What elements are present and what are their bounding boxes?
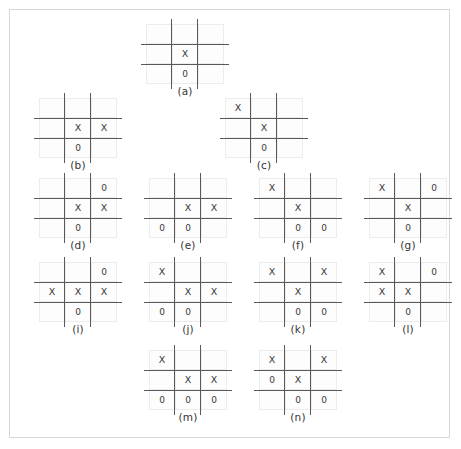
board-cell-r3c3[interactable]: 0 xyxy=(311,390,337,410)
board-cell-r2c2[interactable]: X xyxy=(395,198,421,218)
board-cell-r1c3[interactable] xyxy=(201,262,227,282)
board-cell-r1c3[interactable] xyxy=(277,98,303,118)
board-cell-r2c1[interactable] xyxy=(149,370,175,390)
board-cell-r1c2[interactable] xyxy=(251,98,277,118)
board-cell-r1c1[interactable]: X xyxy=(369,178,395,198)
board-cell-r3c3[interactable] xyxy=(91,218,117,238)
board-cell-r1c3[interactable] xyxy=(201,350,227,370)
board-cell-r1c1[interactable] xyxy=(39,98,65,118)
board-cell-r2c1[interactable] xyxy=(149,282,175,302)
board-cell-r2c3[interactable] xyxy=(311,198,337,218)
board-cell-r1c3[interactable]: 0 xyxy=(91,262,117,282)
board-cell-r1c2[interactable] xyxy=(65,178,91,198)
board-cell-r1c3[interactable] xyxy=(198,24,224,44)
board-cell-r3c3[interactable] xyxy=(277,138,303,158)
board-cell-r3c1[interactable] xyxy=(225,138,251,158)
board-cell-r2c1[interactable] xyxy=(146,44,172,64)
board-cell-r1c3[interactable]: X xyxy=(311,350,337,370)
board-cell-r1c1[interactable] xyxy=(146,24,172,44)
board-cell-r2c3[interactable] xyxy=(198,44,224,64)
board-cell-r2c1[interactable] xyxy=(225,118,251,138)
board-cell-r3c1[interactable]: 0 xyxy=(149,218,175,238)
board-cell-r1c1[interactable]: X xyxy=(259,178,285,198)
board-cell-r2c3[interactable] xyxy=(421,282,447,302)
board-cell-r3c2[interactable]: 0 xyxy=(285,218,311,238)
board-cell-r2c1[interactable]: 0 xyxy=(259,370,285,390)
board-cell-r3c2[interactable]: 0 xyxy=(172,64,198,84)
board-cell-r3c3[interactable] xyxy=(91,302,117,322)
board-cell-r2c1[interactable]: X xyxy=(39,282,65,302)
board-cell-r2c2[interactable]: X xyxy=(175,198,201,218)
board-cell-r3c2[interactable]: 0 xyxy=(175,390,201,410)
board-cell-r1c2[interactable] xyxy=(285,262,311,282)
board-cell-r3c1[interactable] xyxy=(369,302,395,322)
board-cell-r3c3[interactable]: 0 xyxy=(201,390,227,410)
board-cell-r3c3[interactable]: 0 xyxy=(311,218,337,238)
board-cell-r1c1[interactable]: X xyxy=(259,350,285,370)
board-cell-r3c2[interactable]: 0 xyxy=(251,138,277,158)
board-cell-r2c2[interactable]: X xyxy=(251,118,277,138)
board-cell-r2c2[interactable]: X xyxy=(285,282,311,302)
board-cell-r1c2[interactable] xyxy=(175,262,201,282)
board-cell-r3c2[interactable]: 0 xyxy=(175,218,201,238)
board-cell-r1c2[interactable] xyxy=(285,350,311,370)
board-cell-r1c1[interactable]: X xyxy=(149,350,175,370)
board-cell-r1c3[interactable] xyxy=(311,178,337,198)
board-cell-r3c3[interactable] xyxy=(421,302,447,322)
board-cell-r2c3[interactable]: X xyxy=(201,198,227,218)
board-cell-r3c1[interactable] xyxy=(259,218,285,238)
board-cell-r3c1[interactable] xyxy=(39,138,65,158)
board-cell-r3c1[interactable]: 0 xyxy=(149,302,175,322)
board-cell-r3c3[interactable]: 0 xyxy=(311,302,337,322)
board-cell-r2c2[interactable]: X xyxy=(285,370,311,390)
board-cell-r3c1[interactable] xyxy=(146,64,172,84)
board-cell-r1c1[interactable]: X xyxy=(225,98,251,118)
board-cell-r2c1[interactable]: X xyxy=(369,282,395,302)
board-cell-r3c3[interactable] xyxy=(198,64,224,84)
board-cell-r3c2[interactable]: 0 xyxy=(65,302,91,322)
board-cell-r3c2[interactable]: 0 xyxy=(285,302,311,322)
board-cell-r1c1[interactable] xyxy=(39,178,65,198)
board-cell-r2c3[interactable]: X xyxy=(201,282,227,302)
board-cell-r1c2[interactable] xyxy=(65,262,91,282)
board-cell-r1c3[interactable] xyxy=(91,98,117,118)
board-cell-r3c3[interactable] xyxy=(201,302,227,322)
board-cell-r2c2[interactable]: X xyxy=(65,118,91,138)
board-cell-r3c2[interactable]: 0 xyxy=(395,302,421,322)
board-cell-r3c1[interactable] xyxy=(39,302,65,322)
board-cell-r1c1[interactable] xyxy=(149,178,175,198)
board-cell-r1c1[interactable] xyxy=(39,262,65,282)
board-cell-r2c3[interactable]: X xyxy=(91,198,117,218)
board-cell-r3c1[interactable] xyxy=(259,302,285,322)
board-cell-r1c2[interactable] xyxy=(175,350,201,370)
board-cell-r3c3[interactable] xyxy=(91,138,117,158)
board-cell-r1c3[interactable]: 0 xyxy=(421,262,447,282)
board-cell-r1c1[interactable]: X xyxy=(259,262,285,282)
board-cell-r2c1[interactable] xyxy=(149,198,175,218)
board-cell-r2c2[interactable]: X xyxy=(65,282,91,302)
board-cell-r1c2[interactable] xyxy=(175,178,201,198)
board-cell-r2c2[interactable]: X xyxy=(175,370,201,390)
board-cell-r3c3[interactable] xyxy=(201,218,227,238)
board-cell-r3c1[interactable]: 0 xyxy=(149,390,175,410)
board-cell-r2c3[interactable]: X xyxy=(201,370,227,390)
board-cell-r2c3[interactable] xyxy=(311,282,337,302)
board-cell-r3c2[interactable]: 0 xyxy=(175,302,201,322)
board-cell-r2c1[interactable] xyxy=(39,198,65,218)
board-cell-r3c2[interactable]: 0 xyxy=(395,218,421,238)
board-cell-r2c2[interactable]: X xyxy=(172,44,198,64)
board-cell-r2c1[interactable] xyxy=(259,198,285,218)
board-cell-r1c3[interactable]: 0 xyxy=(91,178,117,198)
board-cell-r2c3[interactable] xyxy=(277,118,303,138)
board-cell-r3c3[interactable] xyxy=(421,218,447,238)
board-cell-r1c3[interactable]: 0 xyxy=(421,178,447,198)
board-cell-r1c1[interactable]: X xyxy=(149,262,175,282)
board-cell-r2c2[interactable]: X xyxy=(395,282,421,302)
board-cell-r3c1[interactable] xyxy=(259,390,285,410)
board-cell-r3c1[interactable] xyxy=(39,218,65,238)
board-cell-r2c3[interactable]: X xyxy=(91,118,117,138)
board-cell-r2c1[interactable] xyxy=(259,282,285,302)
board-cell-r1c3[interactable] xyxy=(201,178,227,198)
board-cell-r2c2[interactable]: X xyxy=(285,198,311,218)
board-cell-r1c3[interactable]: X xyxy=(311,262,337,282)
